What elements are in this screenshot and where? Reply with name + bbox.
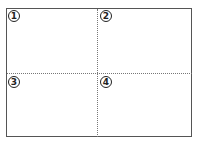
quadrant-3-label: 3	[8, 76, 20, 88]
quadrant-4-label: 4	[100, 76, 112, 88]
horizontal-divider	[7, 73, 192, 74]
quadrant-2-label: 2	[100, 10, 112, 22]
quadrant-1-label: 1	[8, 10, 20, 22]
